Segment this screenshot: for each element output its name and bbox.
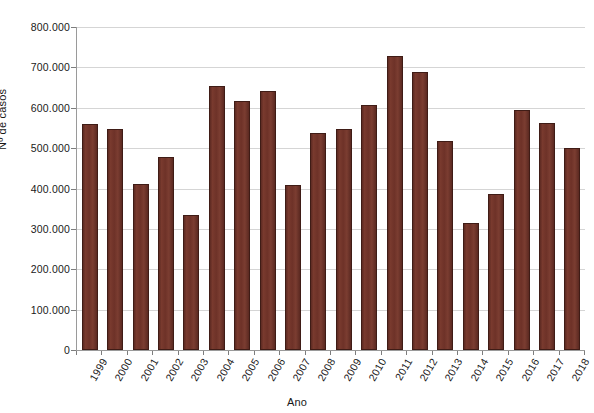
- bar: [387, 56, 403, 350]
- bar: [260, 91, 276, 350]
- y-axis-tick-label: 100.000: [0, 304, 70, 316]
- bar: [133, 184, 149, 350]
- x-axis-tick: [482, 351, 483, 355]
- x-axis-tick: [584, 351, 585, 355]
- x-axis-title: Ano: [0, 396, 594, 408]
- y-axis-tick: [71, 148, 76, 149]
- y-axis-tick: [71, 108, 76, 109]
- y-axis-tick: [71, 67, 76, 68]
- plot-area: [76, 27, 585, 351]
- x-axis-tick: [279, 351, 280, 355]
- bar-chart: Nº de casos 0100.000200.000300.000400.00…: [0, 0, 594, 413]
- x-axis-tick: [127, 351, 128, 355]
- y-axis-tick: [71, 229, 76, 230]
- x-axis-tick: [76, 351, 77, 355]
- bar: [514, 110, 530, 350]
- x-axis-tick: [228, 351, 229, 355]
- bar: [336, 129, 352, 350]
- y-axis-tick: [71, 27, 76, 28]
- x-axis-tick-label: 2007: [290, 356, 312, 383]
- x-axis-tick: [203, 351, 204, 355]
- x-axis-tick: [559, 351, 560, 355]
- bar: [209, 86, 225, 350]
- y-axis-tick-label: 500.000: [0, 142, 70, 154]
- bar: [183, 215, 199, 350]
- x-axis-tick: [152, 351, 153, 355]
- x-axis-tick: [178, 351, 179, 355]
- y-axis-tick-label: 600.000: [0, 102, 70, 114]
- x-axis-tick: [355, 351, 356, 355]
- x-axis-tick: [254, 351, 255, 355]
- bar: [107, 129, 123, 350]
- x-axis-tick-label: 2003: [188, 356, 210, 383]
- x-axis-tick-label: 2006: [264, 356, 286, 383]
- x-axis-tick-label: 2004: [214, 356, 236, 383]
- bar: [82, 124, 98, 350]
- bar: [285, 185, 301, 350]
- bar: [564, 148, 580, 350]
- y-axis-tick-label: 0: [0, 344, 70, 356]
- y-axis-tick: [71, 310, 76, 311]
- x-axis-tick-label: 2016: [518, 356, 540, 383]
- x-axis-tick-label: 2000: [112, 356, 134, 383]
- x-axis-tick: [101, 351, 102, 355]
- bar-series: [77, 27, 585, 350]
- x-axis-tick: [432, 351, 433, 355]
- x-axis-tick-label: 2018: [569, 356, 591, 383]
- x-axis-ticks: [76, 351, 585, 355]
- x-axis-labels: 1999200020012002200320042005200620072008…: [76, 356, 585, 398]
- x-axis-tick: [305, 351, 306, 355]
- bar: [361, 105, 377, 350]
- x-axis-tick: [457, 351, 458, 355]
- x-axis-tick-label: 1999: [87, 356, 109, 383]
- bar: [412, 72, 428, 350]
- bar: [310, 133, 326, 350]
- x-axis-tick: [508, 351, 509, 355]
- x-axis-tick-label: 2012: [417, 356, 439, 383]
- bar: [488, 194, 504, 350]
- x-axis-tick-label: 2014: [468, 356, 490, 383]
- bar: [234, 101, 250, 350]
- y-axis-tick-label: 800.000: [0, 21, 70, 33]
- x-axis-tick-label: 2001: [137, 356, 159, 383]
- bar: [158, 157, 174, 350]
- y-axis-tick: [71, 189, 76, 190]
- x-axis-tick: [381, 351, 382, 355]
- x-axis-tick-label: 2005: [239, 356, 261, 383]
- bar: [437, 141, 453, 350]
- x-axis-tick-label: 2017: [544, 356, 566, 383]
- x-axis-tick: [330, 351, 331, 355]
- y-axis-title: Nº de casos: [0, 89, 8, 150]
- bar: [539, 123, 555, 350]
- x-axis-tick-label: 2009: [341, 356, 363, 383]
- y-axis-tick-label: 700.000: [0, 61, 70, 73]
- x-axis-tick: [406, 351, 407, 355]
- x-axis-tick-label: 2015: [493, 356, 515, 383]
- bar: [463, 223, 479, 350]
- y-axis-tick-label: 400.000: [0, 183, 70, 195]
- y-axis-tick-label: 300.000: [0, 223, 70, 235]
- y-axis-tick-label: 200.000: [0, 263, 70, 275]
- x-axis-tick-label: 2011: [392, 356, 414, 382]
- x-axis-tick-label: 2008: [315, 356, 337, 383]
- x-axis-tick: [533, 351, 534, 355]
- x-axis-tick-label: 2013: [442, 356, 464, 383]
- x-axis-tick-label: 2002: [163, 356, 185, 383]
- y-axis-tick: [71, 269, 76, 270]
- x-axis-tick-label: 2010: [366, 356, 388, 383]
